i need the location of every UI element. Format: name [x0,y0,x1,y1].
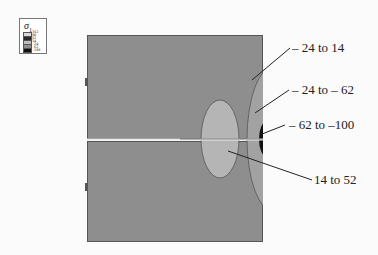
annotation-label: 14 to 52 [314,172,357,188]
leader-line-3 [262,125,285,134]
annotation-label: – 62 to –100 [289,117,354,133]
leader-line-4 [228,151,312,180]
leader-line-1 [252,48,290,80]
annotation-label: – 24 to 14 [292,40,344,56]
annotation-label: – 24 to – 62 [292,82,354,98]
